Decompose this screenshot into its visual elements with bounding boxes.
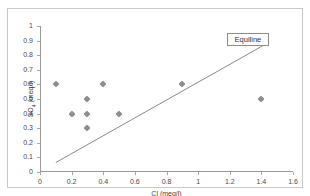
x-tick-label: 0.8 [162,178,172,186]
x-tick [167,172,168,175]
y-tick-label: 0.9 [23,37,33,45]
y-tick-label: 0.2 [23,139,33,147]
x-tick-label: 1.6 [288,178,298,186]
y-tick-label: 0.8 [23,51,33,59]
equiline-svg [40,26,293,172]
x-tick [261,172,262,175]
chart-frame: 00.20.40.60.811.21.41.6 00.10.20.30.40.5… [7,8,303,188]
y-tick-label: 1 [29,22,33,30]
x-tick [293,172,294,175]
x-tick [72,172,73,175]
x-tick-label: 1 [196,178,200,186]
plot-area: 00.20.40.60.811.21.41.6 00.10.20.30.40.5… [40,26,293,172]
x-tick [198,172,199,175]
y-axis-title-subscript: 4 [31,104,37,107]
x-tick [135,172,136,175]
y-axis-title-base: SO [27,107,34,117]
x-tick-label: 1.4 [257,178,267,186]
y-tick-label: 0 [29,168,33,176]
legend-equiline-callout[interactable]: Equiline [227,33,270,46]
x-tick-label: 0.6 [130,178,140,186]
x-tick-label: 0.2 [67,178,77,186]
y-tick-label: 0.1 [23,153,33,161]
x-tick [230,172,231,175]
y-axis-title-unit: (meq/l) [27,81,34,105]
scan-artifact-strip: · · · · · · · · · · · · · · · · · · · · [0,0,310,7]
figure-container: · · · · · · · · · · · · · · · · · · · · … [0,0,310,196]
y-axis-title: SO4 (meq/l) [27,81,37,118]
x-tick-label: 0.4 [98,178,108,186]
x-tick-label: 1.2 [225,178,235,186]
y-tick-label: 0.3 [23,124,33,132]
x-tick-label: 0 [38,178,42,186]
x-tick [40,172,41,175]
y-tick-label: 0.7 [23,66,33,74]
x-axis-title: Cl (meq/l) [40,190,293,196]
x-tick [103,172,104,175]
y-tick [37,172,40,173]
equiline-segment [56,42,269,162]
